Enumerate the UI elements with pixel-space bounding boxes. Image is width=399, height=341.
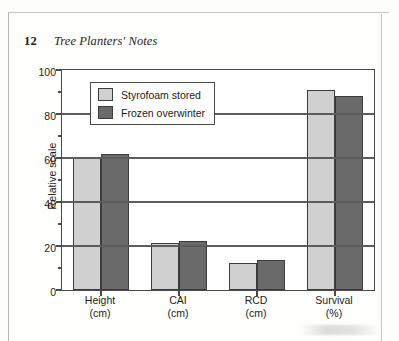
- x-axis-label-line2: (cm): [245, 307, 268, 320]
- y-axis-tick: [56, 157, 62, 158]
- y-axis-tick: [56, 201, 62, 202]
- x-axis-label-line2: (%): [315, 307, 352, 320]
- chart-legend: Styrofoam stored Frozen overwinter: [90, 82, 215, 125]
- x-axis-tick-label: Height(cm): [85, 294, 115, 320]
- legend-label: Frozen overwinter: [121, 107, 205, 119]
- y-axis-tick-label: 40: [44, 198, 56, 210]
- y-axis-tick: [56, 113, 62, 114]
- y-axis-tick-label: 80: [44, 110, 56, 122]
- bar-chart: Relative scale 020406080100 Styrofoam st…: [20, 66, 376, 318]
- y-axis-tick-label: 20: [44, 242, 56, 254]
- y-axis-minor-tick: [58, 135, 62, 136]
- gridline: [62, 157, 374, 158]
- legend-item: Styrofoam stored: [98, 88, 205, 101]
- bar: [151, 243, 179, 290]
- y-axis-tick: [56, 289, 62, 290]
- plot-area: Styrofoam stored Frozen overwinter: [61, 69, 375, 291]
- x-axis-tick-label: CAI(cm): [168, 294, 189, 320]
- publication-title: Tree Planters' Notes: [54, 34, 158, 49]
- x-axis-label-line2: (cm): [168, 307, 189, 320]
- page-number: 12: [24, 34, 37, 49]
- gridline: [62, 201, 374, 202]
- x-axis-tick-label: RCD(cm): [245, 294, 268, 320]
- x-axis-label-line1: CAI: [169, 294, 187, 306]
- running-head: 12 Tree Planters' Notes: [24, 34, 157, 52]
- x-axis-label-line2: (cm): [85, 307, 115, 320]
- page-border-right: [381, 14, 382, 341]
- legend-swatch-styrofoam-stored: [98, 88, 113, 101]
- x-axis-label-line1: Survival: [315, 294, 352, 306]
- y-axis-tick: [56, 245, 62, 246]
- y-axis-tick-labels: 020406080100: [30, 69, 56, 289]
- legend-item: Frozen overwinter: [98, 106, 205, 119]
- y-axis-tick-label: 0: [50, 286, 56, 298]
- bar: [335, 96, 363, 290]
- x-axis-label-line1: RCD: [245, 294, 268, 306]
- x-axis-tick-label: Survival(%): [315, 294, 352, 320]
- scan-artifact: [300, 325, 380, 335]
- y-axis-minor-tick: [58, 267, 62, 268]
- y-axis-minor-tick: [58, 223, 62, 224]
- bar-group: [218, 70, 296, 290]
- scanned-page: 12 Tree Planters' Notes Relative scale 0…: [0, 0, 399, 341]
- bar: [229, 263, 257, 291]
- bar: [73, 158, 101, 290]
- y-axis-minor-tick: [58, 91, 62, 92]
- bar: [101, 154, 129, 290]
- legend-swatch-frozen-overwinter: [98, 106, 113, 119]
- x-axis-label-line1: Height: [85, 294, 115, 306]
- y-axis-tick-label: 60: [44, 154, 56, 166]
- legend-label: Styrofoam stored: [121, 89, 201, 101]
- bar: [257, 260, 285, 290]
- bar: [179, 241, 207, 291]
- y-axis-tick: [56, 69, 62, 70]
- bar: [307, 90, 335, 290]
- gridline: [62, 245, 374, 246]
- y-axis-minor-tick: [58, 179, 62, 180]
- bar-group: [296, 70, 374, 290]
- y-axis-tick-label: 100: [38, 66, 56, 78]
